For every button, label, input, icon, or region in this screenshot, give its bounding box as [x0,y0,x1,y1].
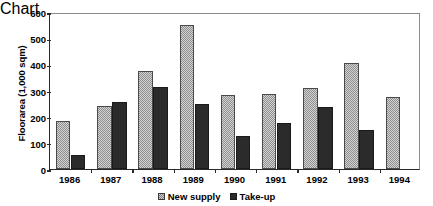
x-tick-label-1991: 1991 [265,174,286,185]
bar-chart: Floorarea (1,000 sqm) 010020030040050060… [0,0,433,206]
checkered-square-swatch [158,193,165,200]
bar-take-up-1987 [112,102,127,170]
x-tick-label-1987: 1987 [100,174,121,185]
x-tick-mark [256,169,257,173]
x-tick-label-1989: 1989 [183,174,204,185]
y-tick-label: 500 [16,35,46,44]
legend-item-new-supply[interactable]: New supply [158,191,221,202]
bar-new-supply-1992 [303,88,318,169]
y-tick-label: 300 [16,87,46,96]
bar-group-1990 [215,14,256,169]
bar-group-1992 [297,14,338,169]
x-tick-label-1994: 1994 [389,174,410,185]
x-tick-mark [215,169,216,173]
y-tick-label: 100 [16,139,46,148]
bar-group-1989 [174,14,215,169]
y-tick-label: 400 [16,61,46,70]
bar-group-1994 [380,14,421,169]
x-tick-label-1986: 1986 [59,174,80,185]
bar-take-up-1991 [277,123,292,169]
legend-label: Take-up [240,191,276,202]
bar-group-1988 [132,14,173,169]
bar-new-supply-1989 [180,25,195,169]
x-tick-mark [132,169,133,173]
bar-take-up-1990 [236,136,251,169]
bar-new-supply-1991 [262,94,277,169]
x-tick-label-1992: 1992 [306,174,327,185]
y-tick-mark [47,170,51,171]
bar-group-1993 [339,14,380,169]
bar-new-supply-1986 [56,121,71,169]
bar-new-supply-1994 [386,97,401,169]
legend-item-take-up[interactable]: Take-up [230,191,276,202]
y-tick-label: 200 [16,113,46,122]
bar-take-up-1986 [71,155,86,169]
bar-take-up-1989 [195,104,210,169]
bar-take-up-1992 [318,107,333,169]
x-tick-mark [91,169,92,173]
bar-take-up-1993 [359,130,374,169]
bar-new-supply-1988 [138,71,153,169]
y-tick-label: 600 [16,9,46,18]
x-tick-mark [174,169,175,173]
chart-legend: New supplyTake-up [0,191,433,202]
x-tick-mark [297,169,298,173]
plot-area [49,13,420,170]
legend-label: New supply [168,191,221,202]
y-tick-label: 0 [16,166,46,175]
solid-square-swatch [230,193,237,200]
bar-group-1986 [50,14,91,169]
x-tick-mark [380,169,381,173]
x-tick-mark [339,169,340,173]
bar-new-supply-1993 [344,63,359,169]
x-tick-label-1993: 1993 [348,174,369,185]
x-tick-label-1988: 1988 [141,174,162,185]
bar-new-supply-1990 [221,95,236,169]
bar-group-1991 [256,14,297,169]
x-axis-tick-labels: 198619871988198919901991199219931994 [49,174,420,188]
bar-new-supply-1987 [97,106,112,169]
x-tick-label-1990: 1990 [224,174,245,185]
bar-group-1987 [91,14,132,169]
y-axis-tick-labels: 0100200300400500600 [16,0,46,206]
bar-take-up-1988 [153,87,168,169]
